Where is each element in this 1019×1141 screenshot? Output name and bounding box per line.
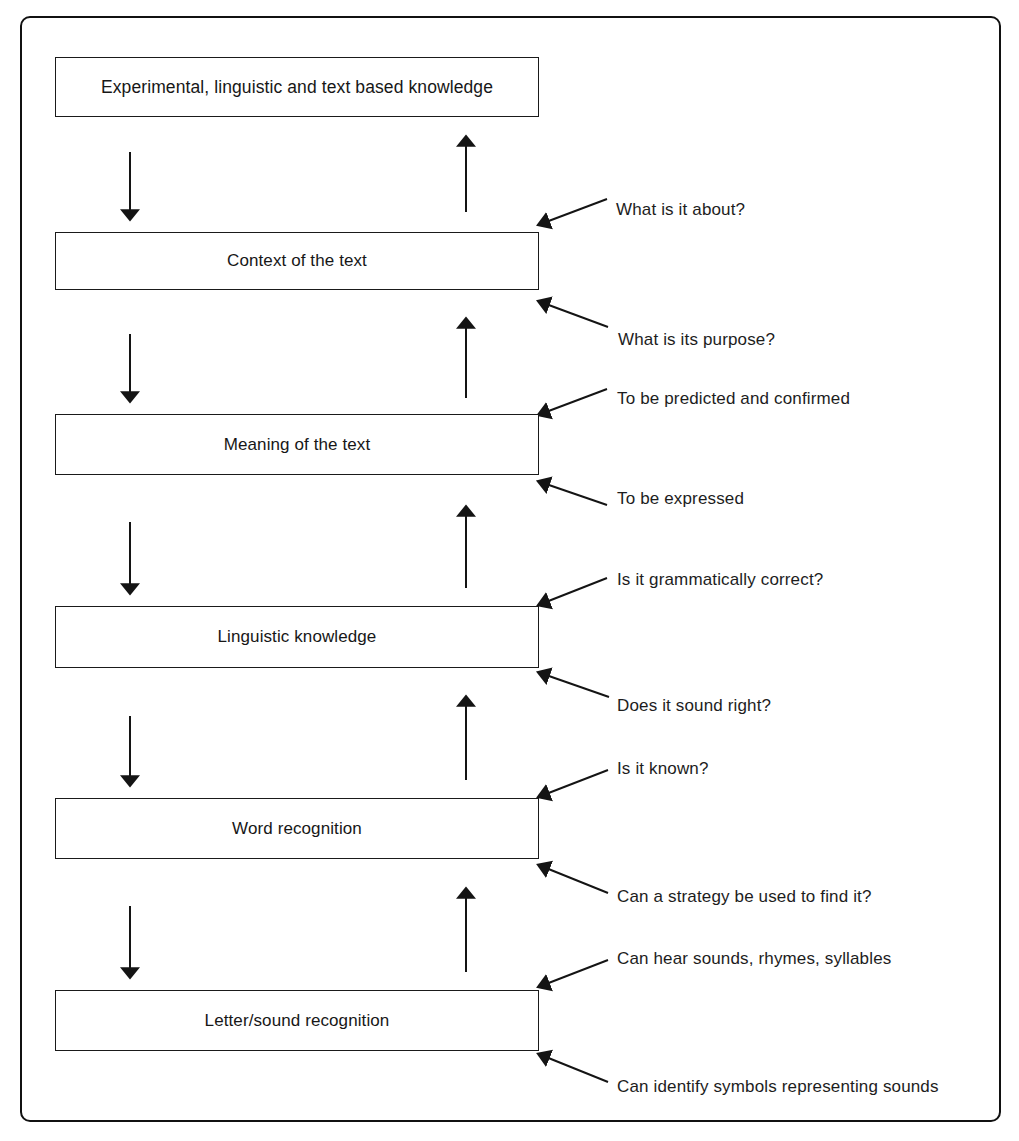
annotation-label-is-it-known: Is it known? (617, 760, 709, 777)
annotation-label-can-identify-symbols: Can identify symbols representing sounds (617, 1078, 939, 1095)
stage-box-label: Linguistic knowledge (218, 627, 377, 647)
stage-box-experimental-knowledge: Experimental, linguistic and text based … (55, 57, 539, 117)
stage-box-linguistic-knowledge: Linguistic knowledge (55, 606, 539, 668)
annotation-label-to-be-predicted-and-confirmed: To be predicted and confirmed (617, 390, 850, 407)
annotation-label-what-is-its-purpose: What is its purpose? (618, 331, 775, 348)
diagram-canvas: Experimental, linguistic and text based … (0, 0, 1019, 1141)
annotation-label-is-it-grammatically-correct: Is it grammatically correct? (617, 571, 823, 588)
annotation-label-can-a-strategy-be-used: Can a strategy be used to find it? (617, 888, 872, 905)
annotation-label-does-it-sound-right: Does it sound right? (617, 697, 771, 714)
stage-box-label: Letter/sound recognition (205, 1011, 390, 1031)
stage-box-label: Context of the text (227, 251, 367, 271)
annotation-label-to-be-expressed: To be expressed (617, 490, 744, 507)
stage-box-letter-sound-recognition: Letter/sound recognition (55, 990, 539, 1051)
stage-box-label: Meaning of the text (224, 435, 371, 455)
stage-box-label: Experimental, linguistic and text based … (101, 77, 493, 98)
annotation-label-what-is-it-about: What is it about? (616, 201, 745, 218)
stage-box-context-of-text: Context of the text (55, 232, 539, 290)
stage-box-meaning-of-text: Meaning of the text (55, 414, 539, 475)
annotation-label-can-hear-sounds: Can hear sounds, rhymes, syllables (617, 950, 891, 967)
stage-box-word-recognition: Word recognition (55, 798, 539, 859)
stage-box-label: Word recognition (232, 819, 362, 839)
